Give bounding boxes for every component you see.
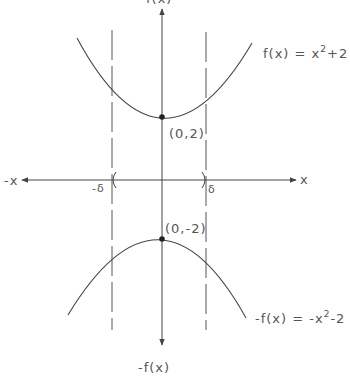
x-positive-axis-label: x [300, 173, 309, 186]
positive-delta-label: δ [208, 184, 216, 195]
lower-vertex-point [159, 236, 165, 242]
upper-equation-base: f(x) = x [263, 46, 320, 61]
upper-vertex-point [159, 114, 165, 120]
y-positive-axis-label: f(x) [146, 0, 172, 5]
lower-equation-suffix: -2 [330, 311, 345, 326]
upper-curve-equation: f(x) = x2+2 [263, 47, 348, 60]
upper-vertex-label: (0,2) [169, 127, 205, 140]
upper-equation-suffix: +2 [327, 46, 348, 61]
lower-vertex-label: (0,-2) [165, 222, 207, 235]
upper-parabola [77, 38, 252, 118]
upper-equation-exponent: 2 [320, 44, 327, 54]
lower-parabola [68, 240, 246, 318]
x-negative-axis-label: -x [4, 174, 18, 187]
negative-delta-label: -δ [92, 183, 105, 194]
lower-equation-base: -f(x) = -x [255, 311, 324, 326]
lower-equation-exponent: 2 [324, 309, 331, 319]
lower-curve-equation: -f(x) = -x2-2 [255, 312, 345, 325]
y-negative-axis-label: -f(x) [138, 361, 170, 374]
